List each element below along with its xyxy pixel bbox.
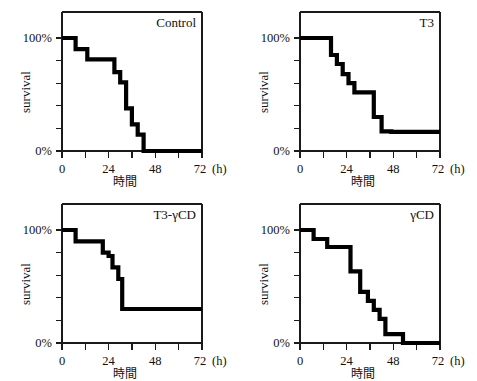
panel-t3-gcd-axes [56, 204, 202, 350]
plot-frame [62, 12, 202, 151]
y-axis-title: survival [256, 263, 271, 305]
y-axis-title: survival [18, 263, 33, 305]
y-axis-title: survival [256, 71, 271, 113]
y-ticks [56, 38, 62, 151]
y-tick-label-100: 100% [23, 31, 52, 45]
panel-title: T3 [420, 15, 434, 30]
y-tick-label-100: 100% [23, 223, 52, 237]
survival-curve [62, 230, 202, 309]
panel-t3-axes [294, 12, 440, 158]
panel-control-axes [56, 12, 202, 158]
panel-title: Control [156, 15, 196, 30]
x-tick-label-0: 0 [297, 162, 303, 176]
x-axis-unit: (h) [212, 162, 227, 176]
x-tick-label-72: 72 [432, 354, 445, 368]
x-axis-unit: (h) [212, 354, 227, 368]
x-tick-label-24: 24 [340, 354, 353, 368]
panel-t3: T3 100% 0% 0 24 48 72 (h) 時間 survival [238, 0, 477, 190]
x-tick-label-24: 24 [102, 162, 115, 176]
survival-curve [62, 38, 202, 151]
y-tick-label-0: 0% [273, 336, 290, 350]
x-axis-unit: (h) [450, 162, 465, 176]
x-axis-unit: (h) [450, 354, 465, 368]
panel-title: γCD [409, 207, 434, 222]
x-ticks [62, 343, 202, 350]
x-tick-label-48: 48 [387, 354, 400, 368]
survival-curve [300, 230, 440, 343]
x-tick-label-0: 0 [59, 354, 65, 368]
x-tick-label-72: 72 [194, 162, 207, 176]
panel-title: T3-γCD [153, 207, 196, 222]
plot-frame [300, 204, 440, 343]
panel-gcd: γCD 100% 0% 0 24 48 72 (h) 時間 survival [238, 190, 477, 381]
y-tick-label-100: 100% [261, 223, 290, 237]
panel-t3-gcd-plot: T3-γCD 100% 0% 0 24 48 72 (h) 時間 surviva… [0, 190, 238, 381]
panel-gcd-plot: γCD 100% 0% 0 24 48 72 (h) 時間 survival [238, 190, 477, 381]
x-tick-label-72: 72 [432, 162, 445, 176]
y-tick-label-0: 0% [35, 144, 52, 158]
x-tick-label-0: 0 [59, 162, 65, 176]
panel-t3-plot: T3 100% 0% 0 24 48 72 (h) 時間 survival [238, 0, 477, 190]
x-tick-label-24: 24 [340, 162, 353, 176]
panel-control-plot: Control 100% 0% 0 24 48 72 (h) 時間 surviv… [0, 0, 238, 190]
panel-gcd-axes [294, 204, 440, 350]
x-axis-title: 時間 [113, 367, 137, 381]
x-tick-label-48: 48 [149, 162, 162, 176]
x-axis-title: 時間 [351, 367, 375, 381]
y-tick-label-0: 0% [273, 144, 290, 158]
y-ticks [294, 230, 300, 343]
x-tick-label-24: 24 [102, 354, 115, 368]
survival-curve-figure: Control 100% 0% 0 24 48 72 (h) 時間 surviv… [0, 0, 477, 381]
y-tick-label-0: 0% [35, 336, 52, 350]
survival-curve [300, 38, 440, 132]
y-ticks [56, 230, 62, 343]
y-tick-label-100: 100% [261, 31, 290, 45]
x-axis-title: 時間 [351, 175, 375, 189]
x-tick-label-48: 48 [149, 354, 162, 368]
x-tick-label-48: 48 [387, 162, 400, 176]
y-axis-title: survival [18, 71, 33, 113]
x-axis-title: 時間 [113, 175, 137, 189]
plot-frame [62, 204, 202, 343]
panel-t3-gcd: T3-γCD 100% 0% 0 24 48 72 (h) 時間 surviva… [0, 190, 238, 381]
x-tick-label-72: 72 [194, 354, 207, 368]
panel-control: Control 100% 0% 0 24 48 72 (h) 時間 surviv… [0, 0, 238, 190]
y-ticks [294, 38, 300, 151]
x-ticks [300, 151, 440, 158]
x-tick-label-0: 0 [297, 354, 303, 368]
